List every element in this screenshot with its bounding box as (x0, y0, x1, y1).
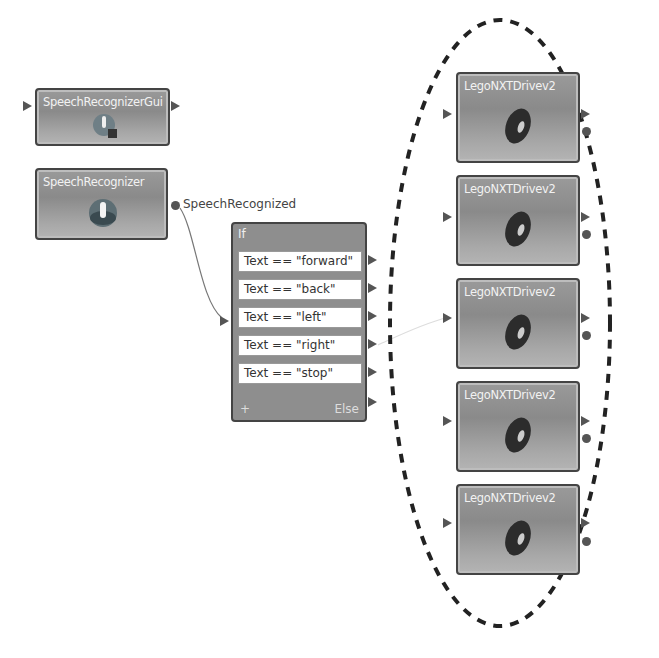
node-title: LegoNXTDrivev2 (464, 285, 556, 299)
tire-icon (504, 518, 532, 558)
node-title: SpeechRecognizer (43, 175, 144, 189)
condition-left[interactable]: Text == "left" (238, 307, 362, 328)
drive-5-input-port[interactable] (443, 518, 452, 528)
add-condition-button[interactable]: + (240, 402, 250, 416)
node-if-block[interactable]: If Text == "forward" Text == "back" Text… (231, 222, 367, 422)
if-output-port-back[interactable] (368, 283, 377, 293)
condition-forward[interactable]: Text == "forward" (238, 251, 362, 272)
drive-2-input-port[interactable] (443, 212, 452, 222)
gui-input-port[interactable] (23, 101, 32, 111)
diagram-canvas: SpeechRecognizerGui SpeechRecognizer Spe… (0, 0, 659, 658)
drive-4-input-port[interactable] (443, 416, 452, 426)
drive-3-output-port[interactable] (581, 313, 590, 323)
drive-4-output-port[interactable] (581, 416, 590, 426)
if-output-port-stop[interactable] (368, 367, 377, 377)
node-lego-drive-4[interactable]: LegoNXTDrivev2 (456, 381, 580, 472)
condition-stop[interactable]: Text == "stop" (238, 363, 362, 384)
connection-speech-to-if (180, 208, 222, 318)
drive-2-output-port[interactable] (581, 212, 590, 222)
microphone-icon (88, 198, 118, 228)
if-output-port-left[interactable] (368, 311, 377, 321)
if-output-port-forward[interactable] (368, 255, 377, 265)
drive-3-event-port[interactable] (582, 331, 591, 340)
drive-1-output-port[interactable] (581, 109, 590, 119)
drive-5-event-port[interactable] (582, 537, 591, 546)
node-lego-drive-2[interactable]: LegoNXTDrivev2 (456, 175, 580, 266)
node-speech-recognizer-gui[interactable]: SpeechRecognizerGui (35, 88, 170, 146)
condition-right[interactable]: Text == "right" (238, 335, 362, 356)
node-speech-recognizer[interactable]: SpeechRecognizer (35, 168, 168, 240)
condition-back[interactable]: Text == "back" (238, 279, 362, 300)
drive-4-event-port[interactable] (582, 434, 591, 443)
node-title: LegoNXTDrivev2 (464, 491, 556, 505)
tire-icon (504, 209, 532, 249)
tire-icon (504, 312, 532, 352)
else-label: Else (334, 402, 359, 416)
node-title: LegoNXTDrivev2 (464, 388, 556, 402)
drive-2-event-port[interactable] (582, 230, 591, 239)
if-input-port[interactable] (220, 316, 229, 326)
drive-1-event-port[interactable] (582, 127, 591, 136)
node-lego-drive-5[interactable]: LegoNXTDrivev2 (456, 484, 580, 575)
microphone-magnifier-icon (92, 112, 118, 140)
node-lego-drive-3[interactable]: LegoNXTDrivev2 (456, 278, 580, 369)
if-title: If (238, 227, 246, 241)
if-output-port-else[interactable] (368, 397, 377, 407)
node-title: LegoNXTDrivev2 (464, 79, 556, 93)
node-title: SpeechRecognizerGui (43, 95, 163, 109)
tire-icon (504, 106, 532, 146)
node-title: LegoNXTDrivev2 (464, 182, 556, 196)
drive-5-output-port[interactable] (581, 518, 590, 528)
drive-3-input-port[interactable] (443, 313, 452, 323)
gui-output-port[interactable] (171, 101, 180, 111)
event-label-speech-recognized: SpeechRecognized (183, 197, 296, 211)
if-output-port-right[interactable] (368, 339, 377, 349)
drive-1-input-port[interactable] (443, 109, 452, 119)
node-lego-drive-1[interactable]: LegoNXTDrivev2 (456, 72, 580, 163)
tire-icon (504, 415, 532, 455)
speech-event-port[interactable] (171, 201, 180, 210)
